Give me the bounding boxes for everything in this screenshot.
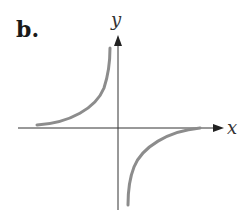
curve-branch-quadrant-2 bbox=[37, 48, 110, 125]
x-axis-arrow-icon bbox=[213, 124, 224, 132]
y-axis-arrow-icon bbox=[114, 35, 122, 46]
y-axis bbox=[114, 35, 122, 210]
panel-label: b. bbox=[16, 16, 39, 42]
function-graph: b. x y bbox=[0, 0, 249, 222]
x-axis-label: x bbox=[227, 117, 237, 138]
y-axis-label: y bbox=[110, 9, 122, 30]
curve-branch-quadrant-4 bbox=[128, 128, 200, 205]
